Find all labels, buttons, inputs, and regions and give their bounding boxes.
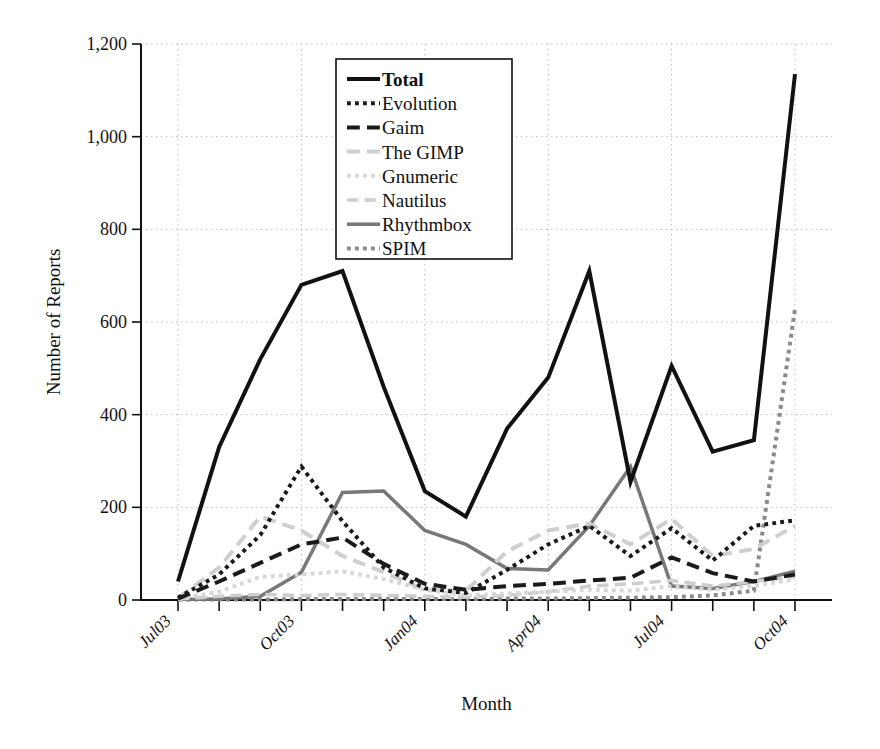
x-tick-label: Jul04 [628, 611, 668, 651]
legend-label-gaim: Gaim [382, 117, 424, 138]
x-axis-title: Month [461, 693, 512, 714]
x-tick-label: Apr04 [501, 611, 546, 656]
line-chart-figure: 02004006008001,0001,200Jul03Oct03Jan04Ap… [0, 0, 880, 749]
x-tick-label: Oct04 [749, 611, 792, 654]
legend-label-the-gimp: The GIMP [382, 142, 464, 163]
y-tick-label: 600 [100, 312, 127, 332]
y-tick-label: 1,000 [87, 127, 128, 147]
chart-canvas: 02004006008001,0001,200Jul03Oct03Jan04Ap… [0, 0, 880, 749]
y-tick-label: 800 [100, 219, 127, 239]
legend: TotalEvolutionGaimThe GIMPGnumericNautil… [336, 59, 512, 259]
series-line-evolution [178, 467, 795, 598]
y-tick-label: 0 [118, 590, 127, 610]
legend-label-gnumeric: Gnumeric [382, 166, 458, 187]
x-tick-label: Oct03 [255, 611, 298, 654]
y-tick-label: 200 [100, 497, 127, 517]
y-tick-label: 1,200 [87, 34, 128, 54]
legend-label-evolution: Evolution [382, 93, 457, 114]
legend-label-rhythmbox: Rhythmbox [382, 214, 472, 235]
legend-label-total: Total [382, 69, 424, 90]
y-axis-title: Number of Reports [43, 249, 64, 396]
x-tick-label: Jul03 [135, 611, 175, 651]
legend-label-spim: SPIM [382, 238, 426, 259]
x-tick-label: Jan04 [379, 611, 422, 654]
legend-label-nautilus: Nautilus [382, 190, 446, 211]
y-tick-label: 400 [100, 405, 127, 425]
